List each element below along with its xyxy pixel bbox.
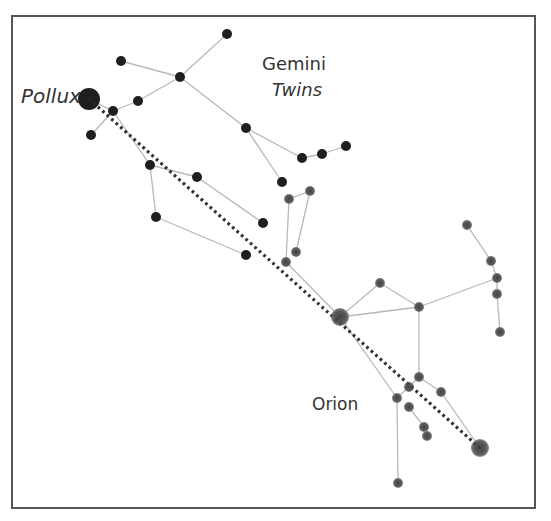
star [462,220,472,230]
gemini-label: Gemini [262,53,326,74]
star [492,273,502,283]
constellation-line [397,398,398,483]
constellation-line [180,77,246,128]
star [414,372,424,382]
star [145,160,155,170]
constellation-line [150,165,197,177]
constellation-line [340,307,419,317]
star [133,96,143,106]
star [317,149,327,159]
star [175,72,185,82]
star [392,393,402,403]
star [305,186,315,196]
constellation-line [150,165,156,217]
constellation-line [197,177,263,223]
pollux-rigel-pointer [89,99,480,448]
star [419,422,429,432]
star [241,250,251,260]
constellation-lines [89,34,500,483]
star [86,130,96,140]
star [222,29,232,39]
star [258,218,268,228]
star [414,302,424,312]
star [341,141,351,151]
star [375,278,385,288]
constellation-line [340,317,397,398]
pollux-label: Pollux [21,84,81,108]
constellation-line [246,128,302,158]
star [116,56,126,66]
pointer-line [89,99,480,448]
star [291,247,301,257]
constellation-line [156,217,246,255]
constellation-line [286,262,340,317]
star [151,212,161,222]
orion-label: Orion [312,394,358,414]
star [486,256,496,266]
star [108,106,118,116]
star [241,123,251,133]
star [404,402,414,412]
constellation-line [497,294,500,332]
star [297,153,307,163]
star [284,194,294,204]
constellation-line [121,61,180,77]
constellation-line [296,191,310,252]
gemini-sub-label: Twins [272,79,322,100]
star [495,327,505,337]
constellation-line [113,111,150,165]
constellation-line [380,283,419,307]
constellation-line [246,128,282,182]
star [422,431,432,441]
star [393,478,403,488]
constellation-line [180,34,227,77]
constellation-line [419,278,497,307]
constellation-line [138,77,180,101]
constellation-line [467,225,491,261]
star [281,257,291,267]
star [436,387,446,397]
star [277,177,287,187]
star [492,289,502,299]
star [192,172,202,182]
constellation-line [286,199,289,262]
